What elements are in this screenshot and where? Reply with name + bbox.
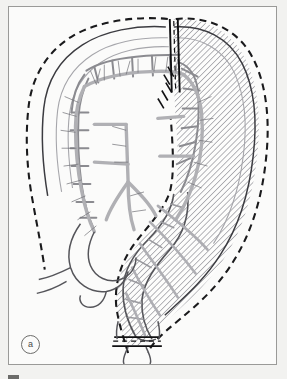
figure-panel: a bbox=[8, 6, 277, 365]
caption-swatch-icon bbox=[8, 375, 19, 379]
terminal-ileum bbox=[37, 268, 71, 294]
figure-caption bbox=[8, 368, 277, 379]
figure-root: a bbox=[0, 0, 287, 379]
colon-resection-diagram bbox=[9, 7, 276, 364]
panel-label: a bbox=[21, 335, 40, 354]
anal-canal bbox=[123, 347, 150, 364]
